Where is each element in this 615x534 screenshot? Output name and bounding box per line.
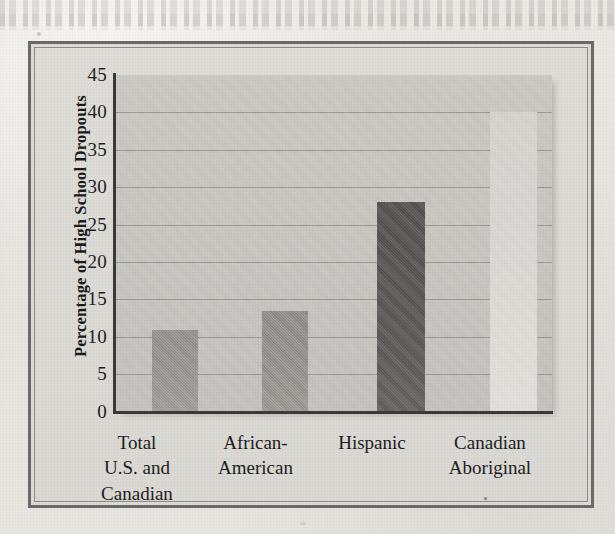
figure-frame: Percentage of High School Dropouts 45 40…	[28, 41, 594, 508]
gridline-15	[115, 299, 552, 300]
x-tick-label-line: Total	[77, 430, 197, 455]
x-tick-label-line: Aboriginal	[425, 455, 555, 480]
scanned-page-background: Percentage of High School Dropouts 45 40…	[0, 0, 615, 534]
y-tick-label-5: 5	[61, 363, 107, 385]
bar-chart: Percentage of High School Dropouts 45 40…	[35, 48, 601, 515]
gridline-20	[115, 262, 552, 263]
x-tick-label-line: African-	[193, 430, 318, 455]
page-bleed-through-second	[0, 14, 615, 30]
paper-speck	[300, 522, 306, 525]
x-tick-label-line: American	[193, 455, 318, 480]
y-tick-label-20: 20	[61, 251, 107, 273]
plot-area	[115, 75, 552, 412]
x-tick-label-total-us-and-canadian: Total U.S. and Canadian	[77, 430, 197, 506]
x-tick-label-line: Canadian	[77, 481, 197, 506]
paper-speck	[37, 32, 41, 36]
x-tick-label-line: Hispanic	[316, 430, 428, 455]
bar-total-us-and-canadian	[152, 330, 198, 412]
y-tick-label-15: 15	[61, 288, 107, 310]
x-tick-label-line: U.S. and	[77, 455, 197, 480]
gridline-40	[115, 112, 552, 113]
y-tick-label-35: 35	[61, 139, 107, 161]
x-tick-label-african-american: African- American	[193, 430, 318, 481]
x-tick-label-line: Canadian	[425, 430, 555, 455]
y-tick-label-10: 10	[61, 326, 107, 348]
y-tick-label-25: 25	[61, 214, 107, 236]
y-tick-label-40: 40	[61, 101, 107, 123]
y-tick-label-0: 0	[61, 401, 107, 423]
x-axis-line	[113, 411, 553, 414]
y-axis-line	[113, 73, 116, 414]
x-tick-label-canadian-aboriginal: Canadian Aboriginal	[425, 430, 555, 481]
gridline-30	[115, 187, 552, 188]
figure-inner-border: Percentage of High School Dropouts 45 40…	[34, 47, 588, 502]
gridline-35	[115, 150, 552, 151]
x-tick-label-hispanic: Hispanic	[316, 430, 428, 455]
bar-hispanic	[377, 202, 425, 412]
y-tick-label-45: 45	[61, 64, 107, 86]
bar-canadian-aboriginal	[490, 112, 537, 412]
gridline-25	[115, 225, 552, 226]
bar-african-american	[262, 311, 308, 412]
scan-smudge-dot	[484, 497, 487, 500]
y-tick-label-30: 30	[61, 176, 107, 198]
